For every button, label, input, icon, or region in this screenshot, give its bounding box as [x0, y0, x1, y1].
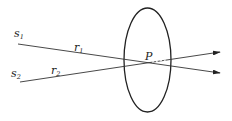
ray-r2-label: r2	[51, 64, 60, 78]
ray-diagram: s1 s2 r1 r2 P	[0, 0, 232, 121]
ray-r1-label: r1	[74, 41, 83, 55]
source-s1-label: s1	[14, 27, 24, 41]
point-p-label: P	[144, 50, 153, 63]
source-s2-label: s2	[11, 67, 21, 81]
ray-r2	[20, 52, 220, 82]
ray-r1	[18, 44, 220, 73]
